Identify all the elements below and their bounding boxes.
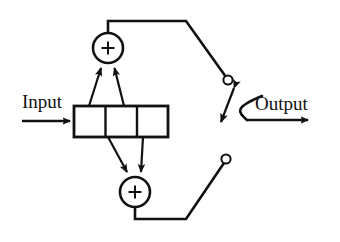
tap-down-left: [108, 137, 127, 172]
tap-down-right: [141, 137, 143, 172]
diagram-canvas: Input Output: [0, 0, 340, 242]
tap-up-right: [115, 68, 125, 106]
delay-line-box: [74, 106, 168, 137]
block-diagram: Input Output: [0, 0, 340, 242]
upper-contact-icon[interactable]: [223, 75, 232, 84]
tap-up-left: [89, 68, 101, 106]
lower-contact-icon[interactable]: [221, 154, 230, 163]
output-label: Output: [255, 93, 309, 114]
upper-feedback-wire: [108, 21, 226, 77]
switch-throw-double-arrow[interactable]: [221, 88, 234, 122]
input-label: Input: [22, 91, 63, 112]
